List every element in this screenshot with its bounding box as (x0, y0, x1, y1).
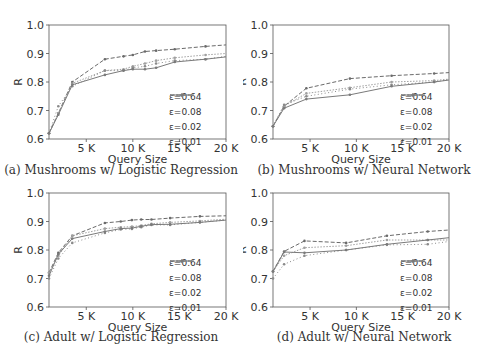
data-point (349, 77, 352, 80)
data-point (433, 81, 436, 84)
data-point (349, 94, 352, 97)
data-point (204, 58, 207, 61)
x-tick-label: 20 K (214, 310, 239, 323)
legend-label: ε=0.01 (169, 301, 201, 316)
data-point (345, 249, 348, 252)
data-point (131, 227, 134, 230)
legend-item: ε=0.08 (400, 271, 432, 286)
data-point (303, 252, 306, 255)
data-point (132, 54, 135, 57)
panel-d: 0.60.70.80.91.05 K10 K15 K20 KQuery Size… (243, 182, 485, 363)
x-tick-label: 5 K (301, 142, 319, 155)
data-point (155, 49, 158, 52)
y-tick-label: 0.8 (251, 76, 269, 89)
y-tick-label: 1.0 (251, 19, 269, 32)
y-tick-label: 1.0 (27, 187, 45, 200)
legend-item: ε=0.02 (169, 286, 201, 301)
data-point (71, 84, 74, 87)
data-point (119, 220, 122, 223)
data-point (303, 240, 306, 243)
data-point (140, 218, 143, 221)
y-tick-label: 0.9 (251, 216, 269, 229)
data-point (386, 239, 389, 242)
y-axis-label: R (12, 246, 25, 254)
data-point (272, 270, 275, 273)
legend-item: ε=0.01 (169, 135, 201, 150)
data-point (283, 254, 286, 257)
data-point (48, 277, 51, 280)
data-point (144, 68, 147, 71)
data-point (349, 88, 352, 91)
legend-label: ε=0.08 (169, 105, 201, 120)
data-point (131, 219, 134, 222)
panel-c: 0.60.70.80.91.05 K10 K15 K20 KQuery Size… (0, 182, 242, 363)
legend-item: ε=0.08 (169, 271, 201, 286)
y-tick-label: 0.8 (27, 76, 45, 89)
caption-d: (d) Adult w/ Neural Network (243, 330, 485, 344)
y-tick-label: 0.8 (27, 244, 45, 257)
data-point (57, 257, 60, 260)
data-point (71, 234, 74, 237)
data-point (155, 62, 158, 65)
legend-swatch-icon (400, 256, 426, 266)
data-point (283, 251, 286, 254)
data-point (119, 227, 122, 230)
data-point (48, 274, 51, 277)
data-point (104, 69, 107, 72)
data-point (426, 239, 429, 242)
data-point (386, 243, 389, 246)
data-point (272, 125, 275, 128)
data-point (199, 215, 202, 218)
caption-c: (c) Adult w/ Logistic Regression (0, 330, 242, 344)
data-point (104, 227, 107, 230)
data-point (104, 74, 107, 77)
legend-item: ε=0.02 (400, 120, 432, 135)
y-tick-label: 0.9 (251, 48, 269, 61)
y-tick-label: 0.7 (251, 105, 269, 118)
legend-label: ε=0.01 (169, 135, 201, 150)
data-point (169, 217, 172, 220)
legend-label: ε=0.08 (400, 105, 432, 120)
data-point (283, 107, 286, 110)
y-tick-label: 0.9 (27, 216, 45, 229)
y-axis-label: R (243, 246, 249, 254)
y-tick-label: 0.6 (27, 133, 45, 146)
data-point (155, 66, 158, 69)
y-tick-label: 0.6 (251, 133, 269, 146)
data-point (272, 277, 275, 280)
data-point (104, 230, 107, 233)
legend-label: ε=0.01 (400, 301, 432, 316)
data-point (390, 85, 393, 88)
chart-b: 0.60.70.80.91.05 K10 K15 K20 KQuery Size… (243, 0, 485, 181)
legend-item: ε=0.01 (400, 135, 432, 150)
legend-item: ε=0.01 (169, 301, 201, 316)
x-tick-label: 5 K (77, 310, 95, 323)
y-tick-label: 0.7 (27, 105, 45, 118)
legend-b: ε=0.64ε=0.08ε=0.02ε=0.01 (400, 90, 432, 150)
data-point (122, 69, 125, 72)
data-point (426, 243, 429, 246)
data-point (345, 244, 348, 247)
data-point (305, 92, 308, 95)
data-point (57, 253, 60, 256)
x-tick-label: 20 K (437, 142, 462, 155)
y-tick-label: 1.0 (251, 187, 269, 200)
data-point (204, 45, 207, 48)
y-tick-label: 0.6 (27, 301, 45, 314)
y-tick-label: 0.9 (27, 48, 45, 61)
data-point (173, 61, 176, 64)
data-point (199, 221, 202, 224)
data-point (57, 105, 60, 108)
chart-a: 0.60.70.80.91.05 K10 K15 K20 KQuery Size… (0, 0, 242, 181)
data-point (204, 54, 207, 57)
data-point (303, 246, 306, 249)
data-point (144, 50, 147, 53)
x-tick-label: 20 K (214, 142, 239, 155)
data-point (433, 72, 436, 75)
x-tick-label: 5 K (301, 310, 319, 323)
data-point (305, 95, 308, 98)
data-point (104, 58, 107, 61)
legend-d: ε=0.64ε=0.08ε=0.02ε=0.01 (400, 256, 432, 316)
data-point (390, 74, 393, 77)
data-point (104, 222, 107, 225)
